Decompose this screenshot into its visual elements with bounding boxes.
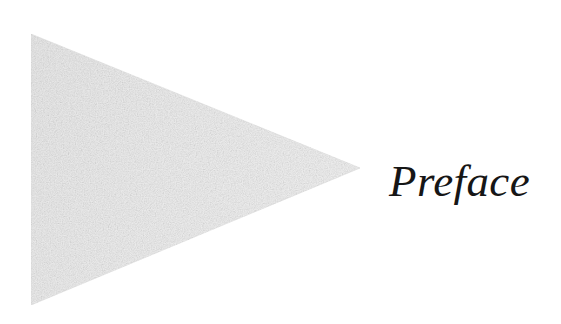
chapter-opening-page: Preface (0, 0, 561, 324)
chapter-title: Preface (389, 155, 530, 207)
triangle-wedge-shape (31, 34, 360, 305)
